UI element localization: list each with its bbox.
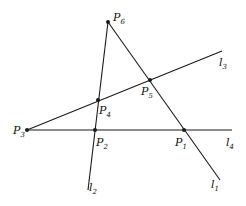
diagram-svg: l1l2l3l4P1P2P3P4P5P6 [0, 0, 246, 206]
p1-label: P1 [174, 136, 187, 151]
line-l1 [108, 22, 220, 180]
l3-label: l3 [219, 56, 228, 71]
l2-label: l2 [89, 181, 98, 196]
l1-label: l1 [211, 178, 219, 193]
l4-label: l4 [226, 136, 234, 151]
p2-label: P2 [95, 136, 108, 151]
p3-label: P3 [12, 124, 25, 139]
point-p6 [106, 20, 110, 24]
p5-label: P5 [140, 85, 153, 100]
line-l3 [27, 51, 222, 130]
point-p3 [25, 128, 29, 132]
labels-layer: l1l2l3l4P1P2P3P4P5P6 [12, 11, 234, 196]
point-p1 [182, 128, 186, 132]
lines-layer [27, 22, 232, 190]
geometry-diagram: l1l2l3l4P1P2P3P4P5P6 [0, 0, 246, 206]
point-p4 [96, 98, 100, 102]
point-p5 [148, 78, 152, 82]
p4-label: P4 [98, 104, 111, 119]
point-p2 [93, 128, 97, 132]
p6-label: P6 [112, 11, 125, 26]
